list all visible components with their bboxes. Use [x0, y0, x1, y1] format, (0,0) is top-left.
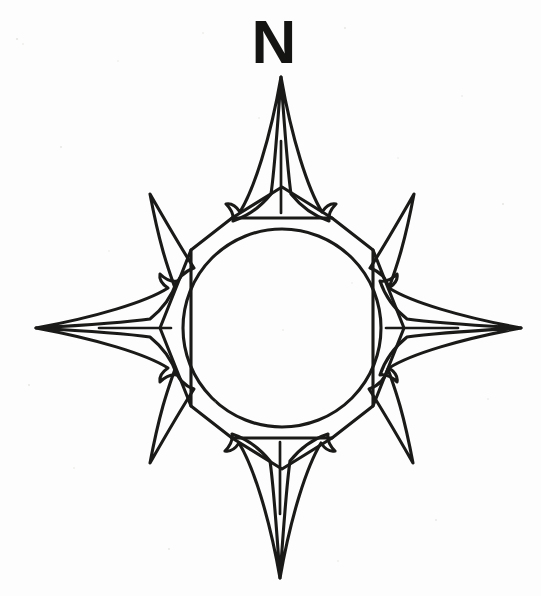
northeast-spike [370, 194, 414, 288]
southwest-spike [150, 369, 194, 463]
north-spike-mirror [281, 77, 336, 221]
west-spike [36, 274, 177, 328]
compass-rose-figure: N [0, 0, 541, 596]
north-label: N [252, 7, 297, 76]
northwest-spike [150, 194, 194, 288]
north-spike [226, 77, 281, 221]
south-spike-mirror [280, 434, 335, 578]
cardinal-spikes-group [36, 77, 521, 578]
west-spike-mirror [36, 328, 177, 382]
compass-rose-drawing: N [0, 0, 541, 596]
southeast-spike [369, 369, 413, 463]
south-spike [225, 434, 280, 578]
center-circle [183, 229, 381, 427]
